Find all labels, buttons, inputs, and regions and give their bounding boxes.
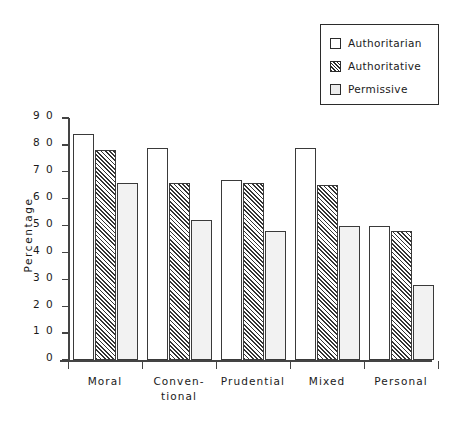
y-axis-tick-mark — [62, 252, 69, 253]
legend-item-authoritarian: Authoritarian — [330, 32, 438, 55]
legend-item-label: Authoritative — [348, 61, 421, 72]
y-axis-tick-mark — [62, 332, 69, 333]
y-axis-tick-label: 3 0 — [33, 272, 54, 283]
y-axis-tick-label: 5 0 — [33, 218, 54, 229]
bar — [169, 183, 190, 360]
y-axis-tick-mark — [62, 198, 69, 199]
y-axis-tick-label: 0 — [46, 352, 54, 363]
bar — [147, 148, 168, 360]
y-axis-tick-label: 2 0 — [33, 299, 54, 310]
bar — [317, 185, 338, 360]
y-axis-tick-label: 6 0 — [33, 191, 54, 202]
x-axis-tick — [216, 361, 217, 369]
bar-group — [73, 118, 138, 360]
bar — [391, 231, 412, 360]
x-axis-tick — [364, 361, 365, 369]
y-axis-tick: 7 0 — [62, 171, 69, 172]
y-axis-tick-mark — [62, 117, 69, 118]
y-axis-tick-mark — [62, 144, 69, 145]
x-axis-tick — [68, 361, 69, 369]
y-axis-tick-mark — [62, 279, 69, 280]
y-axis-tick: 8 0 — [62, 144, 69, 145]
y-axis-tick: 3 0 — [62, 279, 69, 280]
bar-group — [295, 118, 360, 360]
x-axis-tick — [142, 361, 143, 369]
y-axis-line — [68, 118, 70, 360]
y-axis-tick-label: 7 0 — [33, 164, 54, 175]
bar — [221, 180, 242, 360]
bar — [243, 183, 264, 360]
bar-group — [147, 118, 212, 360]
y-axis-tick: 2 0 — [62, 306, 69, 307]
bar-group — [369, 118, 434, 360]
y-axis-title: Percentage — [22, 150, 34, 320]
y-axis-tick: 4 0 — [62, 252, 69, 253]
legend-item-label: Authoritarian — [348, 38, 422, 49]
bar — [413, 285, 434, 360]
y-axis-tick-label: 9 0 — [33, 110, 54, 121]
bar — [339, 226, 360, 360]
x-axis-tick — [290, 361, 291, 369]
bar — [191, 220, 212, 360]
bar — [369, 226, 390, 360]
bar-group — [221, 118, 286, 360]
legend-item-label: Permissive — [348, 84, 408, 95]
light-square-icon — [330, 84, 341, 95]
y-axis-tick: 6 0 — [62, 198, 69, 199]
y-axis-tick-label: 1 0 — [33, 325, 54, 336]
y-axis-tick-label: 4 0 — [33, 245, 54, 256]
y-axis-tick-mark — [62, 171, 69, 172]
x-axis-category-label: Personal — [354, 374, 448, 389]
white-square-icon — [330, 38, 341, 49]
bar — [95, 150, 116, 360]
bar — [73, 134, 94, 360]
bar — [117, 183, 138, 360]
x-axis-line — [60, 360, 432, 362]
legend-item-permissive: Permissive — [330, 78, 438, 101]
y-axis-tick-mark — [62, 306, 69, 307]
plot-area: 01 02 03 04 05 06 07 08 09 0 MoralConven… — [68, 118, 438, 360]
x-axis-tick — [438, 361, 439, 369]
chart-legend: Authoritarian Authoritative Permissive — [320, 24, 439, 105]
y-axis-tick-label: 8 0 — [33, 137, 54, 148]
hatched-square-icon — [330, 61, 341, 72]
y-axis-tick: 9 0 — [62, 117, 69, 118]
legend-item-authoritative: Authoritative — [330, 55, 438, 78]
bar — [265, 231, 286, 360]
y-axis-tick: 5 0 — [62, 225, 69, 226]
y-axis-tick-mark — [62, 225, 69, 226]
y-axis-tick: 1 0 — [62, 332, 69, 333]
bar — [295, 148, 316, 360]
